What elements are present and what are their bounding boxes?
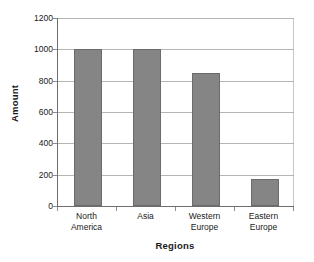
y-axis-tick-label: 0 (20, 202, 53, 211)
y-axis-title-text: Amount (10, 84, 21, 121)
x-axis-category-label: EasternEurope (234, 211, 293, 233)
y-axis-tick-label: 200 (20, 170, 53, 179)
x-axis-category-label: WesternEurope (175, 211, 234, 233)
bar[interactable] (133, 49, 161, 206)
y-axis-tick-label: 800 (20, 76, 53, 85)
y-axis-tick-label: 1200 (20, 14, 53, 23)
y-axis-tick-label: 1000 (20, 45, 53, 54)
plot-area (57, 18, 294, 207)
bar[interactable] (74, 49, 102, 206)
x-axis-category-label: NorthAmerica (57, 211, 116, 233)
bar-chart: Amount 020040060080010001200 NorthAmeric… (0, 0, 314, 262)
bar[interactable] (251, 179, 279, 206)
y-axis-tick-label: 400 (20, 139, 53, 148)
x-axis-tick-mark (293, 207, 294, 211)
y-axis-tick-labels: 020040060080010001200 (20, 18, 53, 206)
y-axis-tick-label: 600 (20, 108, 53, 117)
bar[interactable] (192, 73, 220, 206)
bars-series (58, 18, 294, 206)
x-axis-category-label: Asia (116, 211, 175, 222)
x-axis-title: Regions (57, 240, 293, 251)
x-axis-category-labels: NorthAmericaAsiaWesternEuropeEasternEuro… (57, 211, 293, 239)
